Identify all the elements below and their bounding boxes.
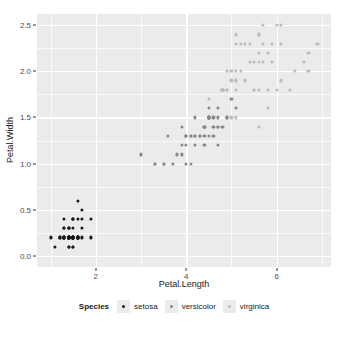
data-point-virginica [225,88,228,91]
data-point-virginica [243,79,246,82]
legend-label: virginica [240,302,269,311]
data-point-virginica [271,60,274,63]
legend-key-versicolor[interactable]: versicolor [165,300,216,313]
grid-line [322,14,323,267]
y-tick-mark [33,209,36,210]
data-point-setosa [81,227,84,230]
legend-label: setosa [134,302,158,311]
y-tick-mark [33,25,36,26]
data-point-setosa [58,236,61,239]
data-point-virginica [262,42,265,45]
legend-key-setosa[interactable]: setosa [117,300,158,313]
data-point-setosa [76,199,79,202]
data-point-virginica [257,60,260,63]
data-point-versicolor [189,134,192,137]
data-point-versicolor [221,125,224,128]
y-tick-label: 0.0 [20,251,31,260]
data-point-virginica [257,125,260,128]
data-point-virginica [253,60,256,63]
data-point-virginica [230,79,233,82]
data-point-virginica [307,51,310,54]
x-tick-mark [95,268,96,271]
data-point-virginica [257,88,260,91]
data-point-virginica [266,88,269,91]
grid-line [37,256,331,257]
data-point-setosa [63,227,66,230]
data-point-virginica [234,88,237,91]
data-point-virginica [207,97,210,100]
legend-key-virginica[interactable]: virginica [223,300,269,313]
y-tick-label: 2.5 [20,21,31,30]
y-tick-mark [33,71,36,72]
grid-line [141,14,142,267]
data-point-virginica [253,88,256,91]
data-point-virginica [266,107,269,110]
data-point-virginica [234,42,237,45]
data-point-virginica [243,42,246,45]
y-tick-label: 2.0 [20,67,31,76]
data-point-versicolor [198,134,201,137]
data-point-setosa [72,236,75,239]
x-axis-title: Petal.Length [37,279,331,289]
data-point-virginica [248,60,251,63]
data-point-versicolor [230,97,233,100]
grid-line [51,14,52,267]
data-point-versicolor [203,134,206,137]
data-point-versicolor [207,134,210,137]
x-tick-mark [186,268,187,271]
y-axis-title: Petal.Width [5,117,15,163]
data-point-versicolor [212,134,215,137]
grid-line [37,117,331,118]
data-point-virginica [316,42,319,45]
data-point-versicolor [194,144,197,147]
data-point-versicolor [203,125,206,128]
data-point-virginica [271,42,274,45]
legend-swatch [165,300,178,313]
legend-swatch [117,300,130,313]
y-tick-mark [33,163,36,164]
data-point-setosa [76,236,79,239]
y-tick-label: 1.5 [20,113,31,122]
grid-line [37,94,331,95]
data-point-setosa [67,236,70,239]
y-tick-label: 1.0 [20,159,31,168]
y-tick-mark [33,255,36,256]
data-point-setosa [49,236,52,239]
data-point-virginica [257,33,260,36]
data-point-virginica [234,79,237,82]
data-point-setosa [90,236,93,239]
data-point-versicolor [216,107,219,110]
data-point-virginica [280,42,283,45]
data-point-setosa [76,217,79,220]
data-point-setosa [72,217,75,220]
data-point-virginica [248,42,251,45]
grid-line [37,141,331,142]
data-point-setosa [63,217,66,220]
data-point-setosa [72,227,75,230]
legend-point-icon [170,305,173,308]
legend-swatch [223,300,236,313]
data-point-setosa [81,236,84,239]
grid-line [277,14,278,267]
data-point-setosa [90,217,93,220]
plot-panel [37,14,331,267]
data-point-setosa [67,245,70,248]
data-point-setosa [63,236,66,239]
y-tick-label: 0.5 [20,205,31,214]
data-point-versicolor [207,107,210,110]
data-point-virginica [289,88,292,91]
data-point-versicolor [194,134,197,137]
data-point-virginica [221,88,224,91]
data-point-versicolor [203,144,206,147]
legend-point-icon [228,305,231,308]
data-point-setosa [81,217,84,220]
data-point-versicolor [139,153,142,156]
data-point-virginica [280,79,283,82]
data-point-virginica [262,60,265,63]
legend-label: versicolor [182,302,216,311]
grid-line [96,14,97,267]
data-point-versicolor [216,144,219,147]
scatter-plot-figure: 0.00.51.01.52.02.5246 Petal.Length Petal… [0,0,348,337]
grid-line [37,233,331,234]
data-point-versicolor [180,153,183,156]
